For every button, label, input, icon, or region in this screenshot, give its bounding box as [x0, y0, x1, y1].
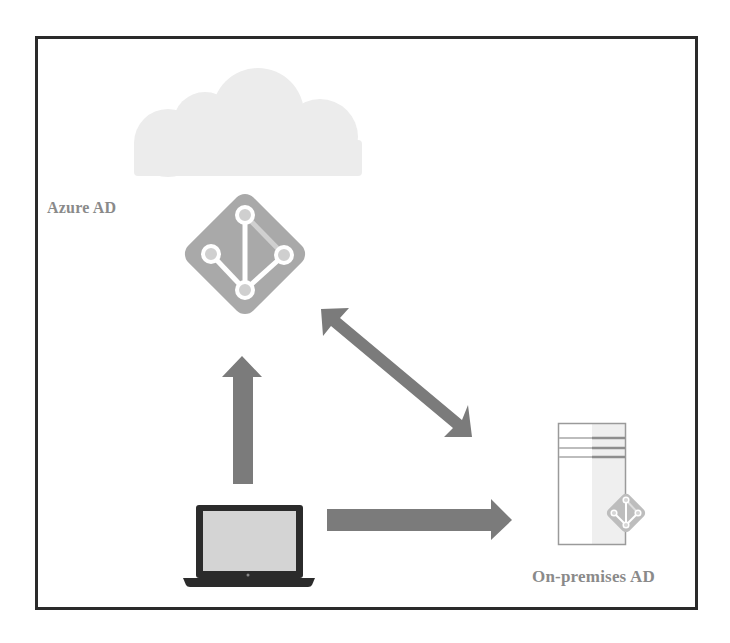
azure-ad-label: Azure AD [47, 199, 116, 217]
arrow-up-icon [222, 356, 262, 484]
cloud-icon [134, 68, 362, 177]
double-arrow-diagonal-icon [321, 308, 472, 437]
on-premises-ad-label: On-premises AD [532, 567, 655, 587]
azure-ad-diamond-icon [180, 189, 310, 319]
arrow-right-icon [327, 499, 512, 540]
laptop-icon [183, 505, 315, 587]
diagram-canvas [0, 0, 730, 643]
server-icon [559, 424, 627, 545]
